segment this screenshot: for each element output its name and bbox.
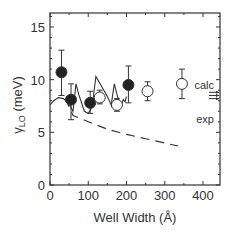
open-data-point	[111, 99, 122, 110]
open-data-point	[142, 86, 153, 97]
filled-data-point	[56, 67, 67, 78]
filled-data-point	[66, 94, 77, 105]
open-data-point	[94, 92, 105, 103]
annotation-calc: calc	[194, 79, 214, 91]
y-axis-label: γLO (meV)	[10, 76, 27, 134]
x-axis-label: Well Width (Å)	[94, 210, 177, 225]
x-tick-label: 300	[154, 188, 176, 203]
y-tick-label: 5	[38, 125, 45, 140]
x-tick-label: 400	[192, 188, 214, 203]
annotation-exp: exp	[196, 113, 214, 125]
y-tick-label: 0	[38, 178, 45, 193]
arrow-head-icon	[216, 94, 219, 97]
x-tick-label: 0	[46, 188, 53, 203]
labels: Well Width (Å) γLO (meV) 010020030040005…	[10, 20, 219, 225]
chart: Well Width (Å) γLO (meV) 010020030040005…	[0, 0, 234, 234]
y-tick-label: 10	[31, 73, 45, 88]
y-tick-label: 15	[31, 20, 45, 35]
x-tick-label: 200	[116, 188, 138, 203]
arrow-head-icon	[216, 91, 219, 94]
filled-data-point	[123, 79, 134, 90]
arrow-head-icon	[216, 97, 219, 100]
open-data-point	[176, 78, 187, 89]
x-tick-label: 100	[77, 188, 99, 203]
